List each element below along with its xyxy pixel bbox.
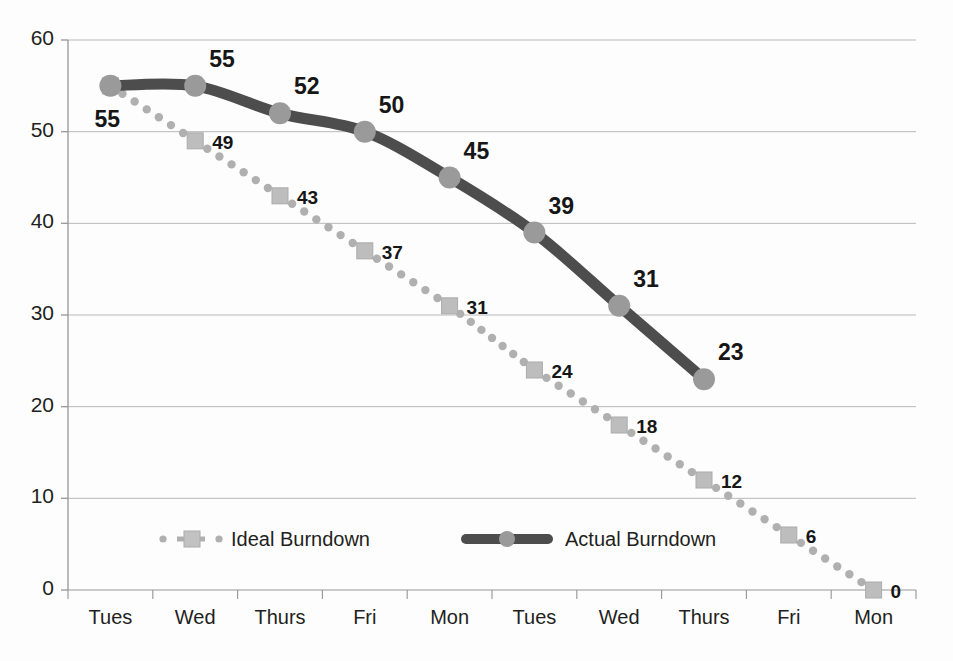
- actual-marker[interactable]: [269, 102, 291, 124]
- series-actual-burndown: [99, 75, 715, 390]
- ideal-line-dot: [627, 429, 635, 437]
- ideal-line-dot: [760, 515, 768, 523]
- actual-marker[interactable]: [523, 222, 545, 244]
- x-axis-ticks: [68, 590, 916, 599]
- ideal-line-dot: [252, 176, 260, 184]
- actual-data-label: 23: [718, 339, 744, 366]
- ideal-line-dot: [130, 97, 138, 105]
- ideal-line-dot: [143, 105, 151, 113]
- ideal-data-label: 37: [382, 242, 403, 264]
- legend-actual-circle-marker: [499, 531, 515, 547]
- ideal-line-dot: [833, 562, 841, 570]
- ideal-data-label: 43: [297, 187, 318, 209]
- y-axis-tick-label: 20: [6, 393, 54, 417]
- actual-data-label: 55: [94, 106, 120, 133]
- ideal-line-dot: [603, 413, 611, 421]
- y-axis-tick-label: 40: [6, 209, 54, 233]
- actual-marker[interactable]: [354, 121, 376, 143]
- legend-ideal-square-marker: [184, 531, 200, 547]
- y-axis-tick-label: 50: [6, 118, 54, 142]
- ideal-data-label: 24: [551, 361, 572, 383]
- ideal-line-dot: [324, 223, 332, 231]
- x-axis-tick-label: Thurs: [662, 606, 747, 629]
- ideal-line-dot: [155, 113, 163, 121]
- ideal-line-dot: [688, 468, 696, 476]
- ideal-line-dot: [845, 570, 853, 578]
- ideal-line-dot: [488, 334, 496, 342]
- x-axis-tick-label: Fri: [746, 606, 831, 629]
- x-axis-tick-label: Mon: [407, 606, 492, 629]
- actual-marker[interactable]: [608, 295, 630, 317]
- ideal-marker[interactable]: [866, 582, 882, 598]
- actual-marker[interactable]: [99, 75, 121, 97]
- ideal-line-dot: [857, 578, 865, 586]
- x-axis-tick-label: Tues: [492, 606, 577, 629]
- ideal-line-dot: [676, 460, 684, 468]
- x-axis-tick-label: Wed: [153, 606, 238, 629]
- ideal-line-dot: [663, 452, 671, 460]
- ideal-line-dot: [797, 539, 805, 547]
- actual-marker[interactable]: [439, 167, 461, 189]
- actual-data-label: 39: [548, 193, 574, 220]
- ideal-marker[interactable]: [781, 527, 797, 543]
- ideal-line-dot: [239, 168, 247, 176]
- ideal-line-dot: [772, 523, 780, 531]
- x-axis-tick-label: Fri: [322, 606, 407, 629]
- actual-data-label: 50: [379, 92, 405, 119]
- series-ideal-burndown: [102, 78, 881, 598]
- axes: [61, 40, 68, 590]
- ideal-line-dot: [509, 350, 517, 358]
- ideal-marker[interactable]: [272, 188, 288, 204]
- ideal-data-label: 18: [636, 416, 657, 438]
- ideal-data-label: 49: [212, 132, 233, 154]
- ideal-line-dot: [748, 507, 756, 515]
- ideal-data-label: 12: [721, 471, 742, 493]
- actual-data-label: 45: [464, 138, 490, 165]
- ideal-marker[interactable]: [526, 362, 542, 378]
- x-axis-tick-label: Mon: [831, 606, 916, 629]
- y-axis-tick-label: 10: [6, 484, 54, 508]
- burndown-chart: 0102030405060 TuesWedThursFriMonTuesWedT…: [0, 0, 953, 661]
- ideal-marker[interactable]: [187, 133, 203, 149]
- ideal-line-dot: [288, 199, 296, 207]
- ideal-line-dot: [373, 254, 381, 262]
- actual-marker[interactable]: [693, 368, 715, 390]
- x-axis-tick-label: Wed: [577, 606, 662, 629]
- legend-item-actual-burndown[interactable]: Actual Burndown: [565, 528, 716, 551]
- ideal-line-dot: [227, 160, 235, 168]
- chart-canvas: [0, 0, 953, 661]
- y-axis-tick-label: 30: [6, 301, 54, 325]
- ideal-line-dot: [651, 444, 659, 452]
- ideal-line-dot: [567, 389, 575, 397]
- ideal-line-dot: [348, 239, 356, 247]
- ideal-line-dot: [736, 499, 744, 507]
- ideal-line-dot: [579, 397, 587, 405]
- ideal-line-dot: [312, 215, 320, 223]
- ideal-line-dot: [542, 374, 550, 382]
- x-axis-tick-label: Thurs: [238, 606, 323, 629]
- ideal-marker[interactable]: [357, 243, 373, 259]
- legend-item-ideal-burndown[interactable]: Ideal Burndown: [231, 528, 370, 551]
- actual-burndown-line: [110, 84, 704, 379]
- ideal-line-dot: [433, 294, 441, 302]
- ideal-marker[interactable]: [442, 298, 458, 314]
- actual-marker[interactable]: [184, 75, 206, 97]
- y-axis-tick-label: 60: [6, 26, 54, 50]
- ideal-data-label: 31: [467, 297, 488, 319]
- ideal-marker[interactable]: [611, 417, 627, 433]
- ideal-line-dot: [409, 278, 417, 286]
- ideal-line-dot: [203, 144, 211, 152]
- ideal-line-dot: [821, 554, 829, 562]
- ideal-marker[interactable]: [696, 472, 712, 488]
- ideal-line-dot: [591, 405, 599, 413]
- ideal-line-dot: [467, 318, 475, 326]
- legend-ideal-dot: [159, 535, 166, 542]
- ideal-line-dot: [397, 270, 405, 278]
- ideal-data-label: 0: [891, 581, 902, 603]
- ideal-line-dot: [167, 121, 175, 129]
- x-axis-tick-label: Tues: [68, 606, 153, 629]
- actual-data-label: 31: [633, 266, 659, 293]
- ideal-line-dot: [477, 326, 485, 334]
- ideal-line-dot: [179, 129, 187, 137]
- y-axis-tick-label: 0: [6, 576, 54, 600]
